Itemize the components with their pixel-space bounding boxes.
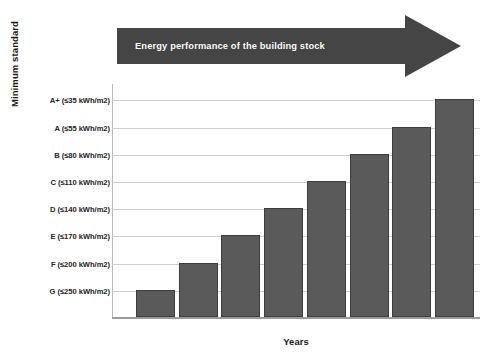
- x-axis-line: [112, 317, 480, 319]
- bar: [179, 263, 218, 317]
- bar: [350, 154, 389, 317]
- y-axis-line: [112, 84, 113, 318]
- plot-area: [112, 84, 480, 318]
- bar: [221, 235, 260, 317]
- y-axis-tick-label: G (≤250 kWh/m2): [26, 286, 110, 295]
- y-axis-tick-labels: A+ (≤35 kWh/m2)A (≤55 kWh/m2)B (≤80 kWh/…: [26, 84, 110, 318]
- y-axis-tick-label: E (≤170 kWh/m2): [26, 232, 110, 241]
- bar: [307, 181, 346, 317]
- y-axis-tick-label: B (≤80 kWh/m2): [26, 150, 110, 159]
- bar: [136, 290, 175, 317]
- y-axis-tick-label: F (≤200 kWh/m2): [26, 259, 110, 268]
- x-axis-title: Years: [112, 336, 480, 347]
- energy-performance-arrow-label: Energy performance of the building stock: [135, 13, 325, 79]
- y-axis-tick-label: A (≤55 kWh/m2): [26, 123, 110, 132]
- bar: [392, 127, 431, 317]
- y-axis-title: Minimum standard: [9, 0, 25, 144]
- y-axis-tick-label: D (≤140 kWh/m2): [26, 205, 110, 214]
- gridline: [112, 100, 480, 101]
- bar: [264, 208, 303, 317]
- y-axis-tick-label: C (≤110 kWh/m2): [26, 177, 110, 186]
- energy-performance-arrow: Energy performance of the building stock: [117, 13, 461, 79]
- y-axis-tick-label: A+ (≤35 kWh/m2): [26, 96, 110, 105]
- bar: [435, 99, 474, 317]
- energy-performance-bar-chart: Minimum standard A+ (≤35 kWh/m2)A (≤55 k…: [0, 0, 494, 361]
